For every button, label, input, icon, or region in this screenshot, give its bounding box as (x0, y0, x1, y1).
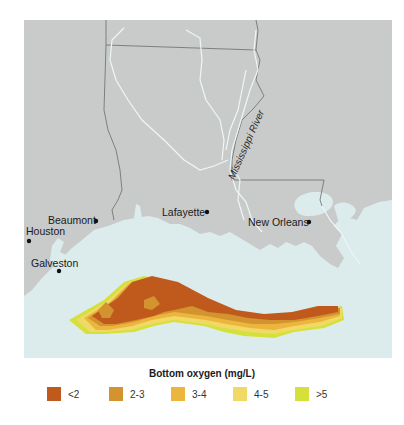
svg-text:New Orleans: New Orleans (248, 216, 309, 228)
city-new-orleans: New Orleans (248, 216, 311, 228)
city-lafayette: Lafayette (162, 206, 209, 218)
legend-label: 3-4 (192, 389, 206, 400)
legend-label: 4-5 (254, 389, 268, 400)
legend-item-gt5: >5 (295, 387, 357, 401)
legend-title: Bottom oxygen (mg/L) (0, 368, 404, 379)
hypoxia-map: Mississippi River Beaumont Houston Galve… (24, 20, 392, 358)
legend-swatch (295, 387, 309, 401)
legend-label: 2-3 (130, 389, 144, 400)
legend-item-lt2: <2 (47, 387, 109, 401)
svg-text:Houston: Houston (26, 225, 65, 237)
svg-text:Lafayette: Lafayette (162, 206, 205, 218)
svg-text:Galveston: Galveston (31, 257, 78, 269)
legend: Bottom oxygen (mg/L) <2 2-3 3-4 4-5 >5 (0, 368, 404, 401)
legend-label: >5 (316, 389, 327, 400)
legend-swatch (47, 387, 61, 401)
legend-item-3-4: 3-4 (171, 387, 233, 401)
legend-swatch (109, 387, 123, 401)
legend-item-2-3: 2-3 (109, 387, 171, 401)
legend-item-4-5: 4-5 (233, 387, 295, 401)
legend-swatch (171, 387, 185, 401)
legend-swatch (233, 387, 247, 401)
legend-items: <2 2-3 3-4 4-5 >5 (0, 387, 404, 401)
legend-label: <2 (68, 389, 79, 400)
